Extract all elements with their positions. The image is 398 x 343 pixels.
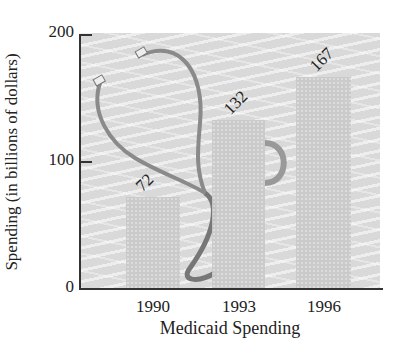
y-axis-title: Spending (in billions of dollars) bbox=[2, 17, 22, 307]
bar-1993 bbox=[212, 120, 265, 288]
x-tick-label: 1996 bbox=[294, 297, 354, 317]
y-tick-100 bbox=[80, 161, 92, 163]
x-tick-label: 1990 bbox=[123, 297, 183, 317]
y-tick-200 bbox=[80, 34, 92, 36]
bar-1996 bbox=[296, 77, 351, 288]
y-tick-label: 0 bbox=[44, 277, 74, 297]
x-axis-title: Medicaid Spending bbox=[80, 318, 380, 339]
x-tick-label: 1993 bbox=[209, 297, 269, 317]
bar-1990 bbox=[126, 197, 180, 288]
x-axis bbox=[79, 288, 383, 290]
y-tick-label: 100 bbox=[44, 150, 74, 170]
y-tick-label: 200 bbox=[44, 22, 74, 42]
